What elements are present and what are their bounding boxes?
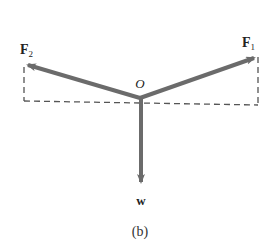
label-f1: F1 — [242, 35, 255, 52]
label-f2: F2 — [20, 42, 33, 59]
force-diagram: F2 F1 O w (b) — [0, 0, 276, 251]
label-origin: O — [135, 76, 145, 91]
label-f1-main: F — [242, 35, 251, 50]
vector-f2-arrow — [28, 65, 140, 98]
label-f2-main: F — [20, 42, 29, 57]
label-w: w — [136, 193, 146, 208]
label-f2-sub: 2 — [29, 49, 34, 59]
label-f1-sub: 1 — [251, 42, 256, 52]
vector-f1-arrow — [140, 58, 254, 98]
caption: (b) — [132, 224, 149, 240]
